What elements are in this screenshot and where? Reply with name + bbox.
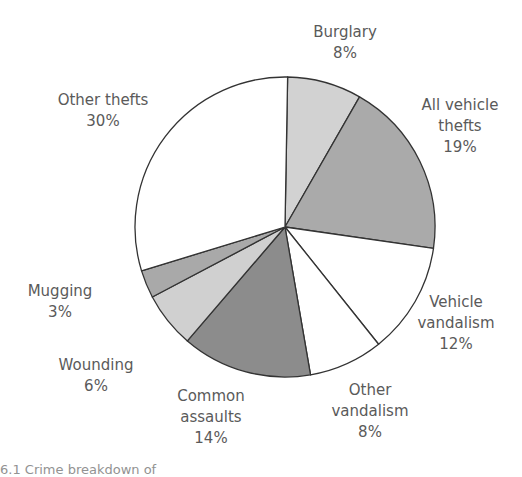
label-name: Common bbox=[177, 386, 245, 407]
label-vehicle-vandalism: Vehicle vandalism 12% bbox=[417, 292, 494, 355]
label-name: Mugging bbox=[28, 281, 93, 302]
pie-slices bbox=[135, 77, 435, 377]
label-value: 6% bbox=[59, 376, 134, 397]
label-name-line2: thefts bbox=[422, 116, 499, 137]
label-name: Other bbox=[331, 380, 408, 401]
label-name: Wounding bbox=[59, 355, 134, 376]
label-common-assaults: Common assaults 14% bbox=[177, 386, 245, 449]
label-value: 30% bbox=[58, 111, 149, 132]
label-name: Other thefts bbox=[58, 90, 149, 111]
label-other-vandalism: Other vandalism 8% bbox=[331, 380, 408, 443]
label-wounding: Wounding 6% bbox=[59, 355, 134, 397]
label-name-line2: assaults bbox=[177, 407, 245, 428]
label-mugging: Mugging 3% bbox=[28, 281, 93, 323]
figure-caption: 6.1 Crime breakdown of bbox=[0, 462, 156, 477]
label-value: 12% bbox=[417, 334, 494, 355]
label-burglary: Burglary 8% bbox=[313, 22, 377, 64]
label-name-line2: vandalism bbox=[417, 313, 494, 334]
label-name: All vehicle bbox=[422, 95, 499, 116]
label-value: 14% bbox=[177, 428, 245, 449]
label-name-line2: vandalism bbox=[331, 401, 408, 422]
label-name: Vehicle bbox=[417, 292, 494, 313]
label-value: 3% bbox=[28, 302, 93, 323]
label-name: Burglary bbox=[313, 22, 377, 43]
label-other-thefts: Other thefts 30% bbox=[58, 90, 149, 132]
label-value: 8% bbox=[313, 43, 377, 64]
label-all-vehicle-thefts: All vehicle thefts 19% bbox=[422, 95, 499, 158]
label-value: 19% bbox=[422, 137, 499, 158]
label-value: 8% bbox=[331, 422, 408, 443]
